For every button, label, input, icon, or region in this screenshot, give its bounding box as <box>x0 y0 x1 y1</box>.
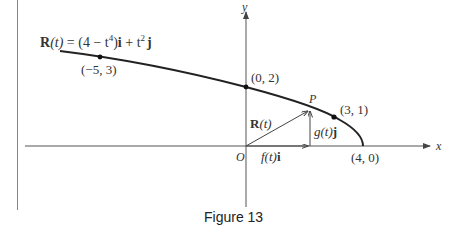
origin-label: O <box>236 150 245 164</box>
figure-caption: Figure 13 <box>204 209 263 225</box>
figure-canvas: R(t) = (4 − t4)i + t2j (−5, 3) (0, 2) (3… <box>0 0 465 232</box>
x-axis-label: x <box>435 139 442 153</box>
y-axis-label: y <box>241 0 248 14</box>
curve-equation: R(t) = (4 − t4)i + t2j <box>40 33 152 51</box>
point-label-P: P <box>308 92 317 106</box>
point-0-2 <box>244 85 249 90</box>
point-minus5-3 <box>98 55 103 60</box>
point-label-0-2: (0, 2) <box>251 70 279 85</box>
point-label-3-1: (3, 1) <box>340 102 368 117</box>
vertical-vector-label: g(t)j <box>314 124 337 139</box>
horizontal-vector-label: f(t)i <box>261 149 281 164</box>
point-label-minus5-3: (−5, 3) <box>81 62 117 77</box>
point-label-4-0: (4, 0) <box>351 150 379 165</box>
point-3-1 <box>331 114 336 119</box>
position-vector-label: R(t) <box>250 116 272 131</box>
